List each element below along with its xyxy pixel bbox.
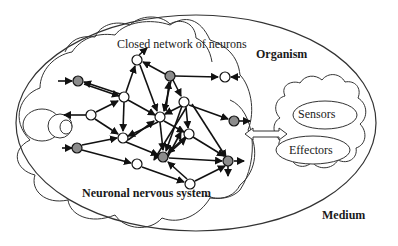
sensors-label: Sensors: [298, 108, 335, 120]
bidirectional-arrow: [245, 128, 287, 140]
neuron-node: [179, 97, 189, 107]
neuron-node: [119, 92, 129, 102]
io-neuron-node: [73, 76, 83, 86]
neuron-node: [184, 129, 194, 139]
effectors-label: Effectors: [289, 144, 333, 156]
neuron-node: [220, 72, 230, 82]
left-organ-inner: [60, 120, 72, 134]
neuron-node: [132, 159, 142, 169]
io-neuron-node: [165, 71, 175, 81]
neuron-node: [132, 55, 142, 65]
neuronal-system-label: Neuronal nervous system: [82, 187, 211, 199]
closed-network-label: Closed network of neurons: [117, 38, 247, 50]
neuron-node: [155, 112, 165, 122]
io-neuron-node: [158, 152, 168, 162]
white-neurons: [86, 55, 230, 189]
neuron-node: [86, 110, 96, 120]
organism-label: Organism: [256, 48, 307, 60]
io-neuron-node: [229, 116, 239, 126]
io-neuron-node: [72, 143, 82, 153]
neuron-node: [118, 133, 128, 143]
io-neuron-node: [223, 156, 233, 166]
medium-label: Medium: [322, 209, 365, 221]
